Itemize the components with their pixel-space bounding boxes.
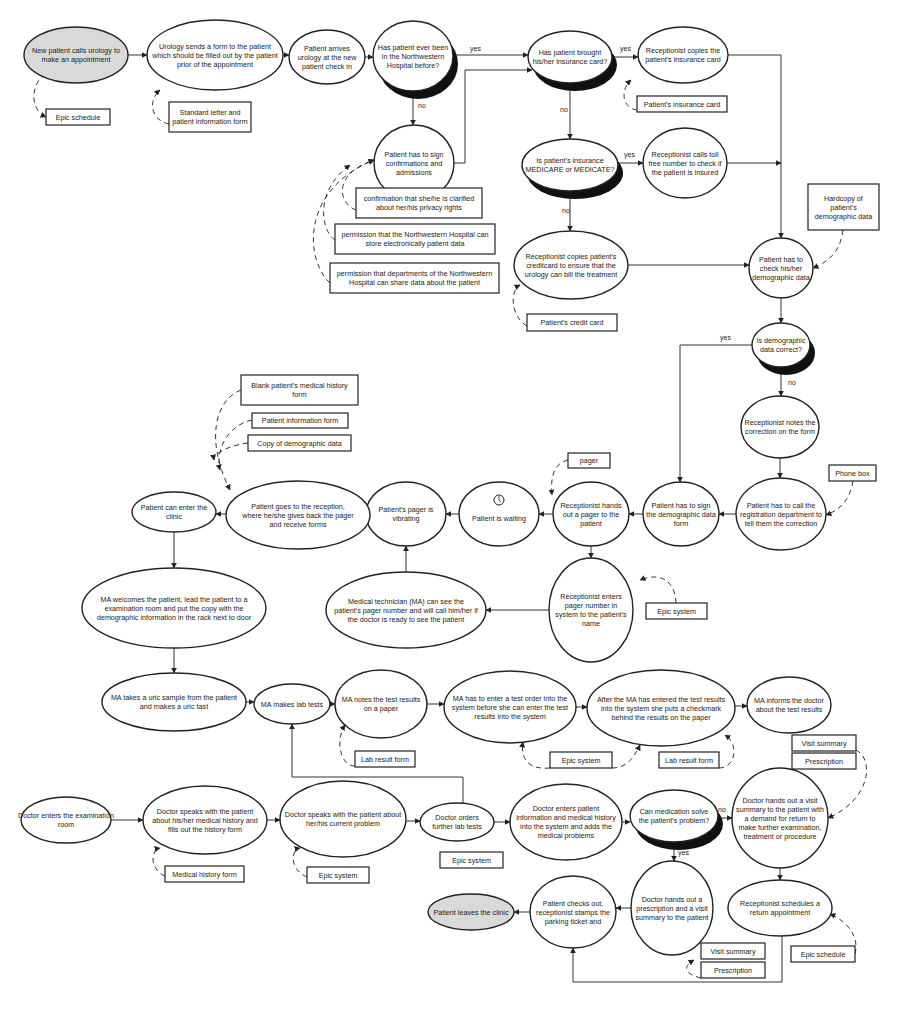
document-d13: pager [568, 453, 610, 468]
document-label: about her/his privacy rights [376, 203, 462, 212]
node-label: make further examination, [738, 823, 821, 832]
node-label: out a pager to the [563, 510, 619, 519]
node-label: Patient arrives [304, 44, 350, 53]
node-label: behind the results on the paper [611, 713, 711, 722]
document-label: store electronically patient data [365, 239, 464, 248]
node-label: into the system and adds the [520, 822, 612, 831]
data-link-arrow [624, 80, 637, 110]
node-label: creditcard to ensure that the [526, 261, 616, 270]
node-n27: MA has to enter a test order into thesys… [444, 671, 576, 743]
node-n12: Is demographicdata correct? [752, 323, 815, 375]
document-label: Medical history form [172, 870, 236, 879]
document-d8: Hardcopy ofpatient'sdemographic data [808, 184, 879, 230]
node-label: medical problems [538, 831, 595, 840]
node-label: pager number in [565, 601, 617, 610]
document-d10: Blank patient's medical historyform [241, 375, 358, 405]
node-label: MA makes lab tests [261, 700, 324, 709]
data-link-arrow [826, 481, 853, 515]
node-n24: MA takes a uric sample from the patienta… [102, 673, 246, 731]
node-label: vibrating [392, 514, 419, 523]
clock-icon [494, 495, 504, 505]
document-d22: Epic system [440, 852, 503, 868]
node-label: the patient's problem? [639, 816, 710, 825]
node-label: Doctor hands out a visit [742, 796, 817, 805]
node-label: MA notes the test results [342, 695, 421, 704]
node-label: MA has to enter a test order into the [453, 694, 567, 703]
flow-arrow [454, 70, 532, 163]
document-d18: Visit summary [792, 735, 856, 751]
node-n10: Receptionist copies patient'screditcard … [514, 231, 628, 299]
document-d21: Epic system [307, 867, 369, 883]
node-label: Patient is waiting [472, 514, 526, 523]
node-n13: Receptionist notes thecorrection on the … [741, 396, 819, 458]
node-label: system before she can enter the test [452, 703, 568, 712]
node-n2: Urology sends a form to the patientwhich… [147, 20, 283, 90]
node-label: which should be filled out by the patien… [151, 51, 277, 60]
node-label: the doctor is ready to see the patient [348, 615, 464, 624]
node-label: the patient is insured [652, 168, 718, 177]
node-label: Doctor orders [435, 813, 479, 822]
node-n32: Doctor speaks with the patient abouther/… [280, 781, 406, 857]
data-link-arrow [719, 735, 734, 768]
node-label: Can medication solve [640, 807, 709, 816]
node-label: Patient can enter the [141, 503, 207, 512]
node-label: examination room and put the copy with t… [104, 604, 243, 613]
document-label: Prescription [805, 757, 843, 766]
node-label: tell them the correction [745, 519, 818, 528]
document-d7: Patient's credit card [527, 314, 617, 331]
document-label: Standard letter and [179, 108, 240, 117]
node-label: where he/she gives back the pager [241, 511, 354, 520]
edge-label: yes [620, 45, 631, 53]
node-label: and makes a uric tast [140, 702, 208, 711]
edge-label: no [788, 379, 796, 386]
document-label: permission that the Northwestern Hospita… [341, 230, 488, 239]
node-label: Patient has to sign [651, 501, 710, 510]
data-link-arrow [216, 390, 241, 490]
node-n23: Receptionist enterspager number insystem… [549, 558, 633, 662]
document-label: pager [580, 456, 599, 465]
node-n8: Is patient's insuranceMEDICARE or MEDICA… [522, 139, 623, 199]
node-label: clinic [166, 512, 182, 521]
node-label: prior of the appointment [177, 60, 253, 69]
document-label: Patient's credit card [541, 318, 604, 327]
node-label: the demographic data [646, 510, 716, 519]
edge-label: yes [624, 151, 635, 159]
node-label: Medical technician (MA) can see the [348, 597, 464, 606]
node-label: patient's insurance card [645, 55, 721, 64]
edge-label: no [560, 106, 568, 113]
document-label: Epic schedule [801, 950, 846, 959]
node-label: Patient has to sign [384, 150, 443, 159]
document-label: Patient's insurance card [644, 100, 720, 109]
node-label: Receptionist enters [560, 592, 622, 601]
node-label: Is demographic [756, 336, 806, 345]
node-label: on a paper [364, 704, 399, 713]
document-d11: Patient information form [252, 413, 348, 428]
document-d2: Standard letter andpatient information f… [169, 102, 251, 132]
node-label: summary to the patient [635, 913, 708, 922]
node-n4: Has patient ever beenin the Northwestern… [373, 21, 458, 99]
node-label: system to the patient's [555, 610, 627, 619]
document-label: Visit summary [711, 947, 756, 956]
node-n6: Receptionist copies thepatient's insuran… [638, 27, 728, 83]
node-label: Has patient brought [539, 48, 602, 57]
document-label: confirmation that she/he is clarified [364, 194, 475, 203]
node-label: form [674, 519, 688, 528]
node-label: information and medical history [516, 813, 616, 822]
node-label: about the test results [756, 705, 823, 714]
node-n33: Doctor ordersfurther lab tests [420, 803, 494, 841]
document-label: Patient information form [262, 416, 338, 425]
flow-arrow [728, 55, 781, 238]
node-n36: Doctor hands out a visitsummary to the p… [732, 768, 828, 868]
node-label: his/her insurance card? [533, 57, 608, 66]
node-label: demographic data [752, 273, 810, 282]
node-label: confirmations and [386, 159, 443, 168]
document-label: demographic data [815, 212, 873, 221]
node-label: summary to the patient with [736, 805, 824, 814]
node-n19: Patient goes to the reception,where he/s… [226, 481, 370, 549]
node-n16: Receptionist handsout a pager to thepati… [553, 482, 629, 546]
document-d1: Epic schedule [46, 109, 110, 125]
data-link-arrow [687, 960, 701, 978]
document-d20: Medical history form [165, 866, 244, 882]
data-link-arrow [640, 577, 676, 603]
document-d16: Epic system [550, 752, 612, 768]
